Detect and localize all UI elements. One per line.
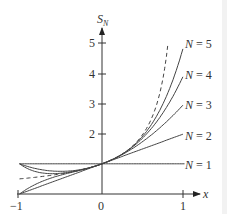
ytick-label: 4 bbox=[89, 67, 95, 81]
ytick-label: 2 bbox=[89, 127, 95, 141]
xtick-label: −1 bbox=[10, 199, 23, 213]
chart: −1 0 1 2 3 4 5 x SN N = 5 N = 4 N = 3 N … bbox=[0, 0, 227, 214]
ytick-label: 3 bbox=[89, 97, 95, 111]
series-label-n5: N = 5 bbox=[184, 37, 212, 51]
series-line bbox=[20, 105, 183, 171]
ytick-label: 5 bbox=[89, 36, 95, 50]
ticks bbox=[18, 43, 183, 198]
series-line bbox=[20, 49, 183, 174]
xtick-label: 0 bbox=[98, 199, 104, 213]
series-label-n3: N = 3 bbox=[184, 98, 212, 112]
y-axis-label: SN bbox=[97, 12, 109, 28]
series-label-n4: N = 4 bbox=[184, 68, 212, 82]
series-label-n2: N = 2 bbox=[184, 129, 212, 143]
xtick-label: 1 bbox=[180, 199, 186, 213]
x-axis-label: x bbox=[202, 187, 209, 201]
series-label-n1: N = 1 bbox=[184, 158, 212, 172]
